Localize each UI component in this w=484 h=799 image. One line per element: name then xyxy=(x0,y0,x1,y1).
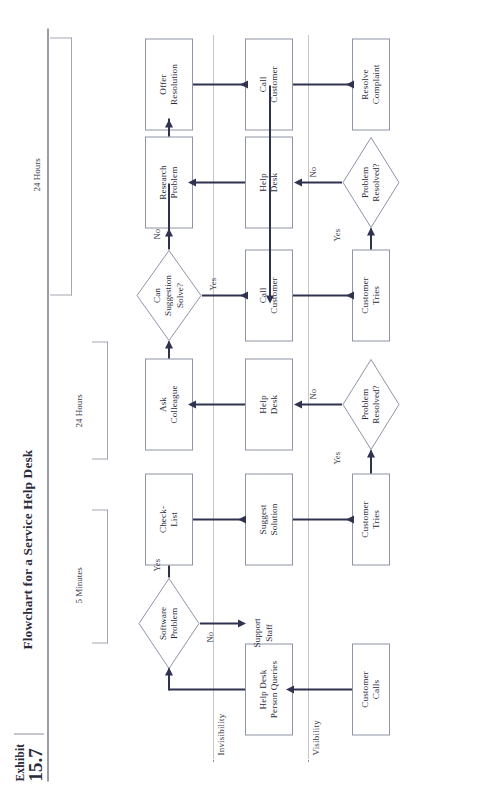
connector-callcust2-to-resolve xyxy=(293,83,352,85)
node-customer-tries-1[interactable]: Customer Tries xyxy=(352,473,390,565)
branch-label-software-yes: Yes xyxy=(152,558,162,571)
node-software-problem[interactable]: Software Problem xyxy=(138,577,200,669)
branch-label-resolved1-no: No xyxy=(308,388,318,399)
node-label: Customer Tries xyxy=(360,277,383,314)
node-customer-tries-2[interactable]: Customer Tries xyxy=(352,249,390,341)
arrowhead-right xyxy=(367,227,375,235)
connector-software-yes-to-checklist xyxy=(168,565,170,577)
node-can-suggestion-solve[interactable]: Can Suggestion Solve? xyxy=(136,249,202,341)
node-customer-calls[interactable]: Customer Calls xyxy=(352,643,390,735)
node-label: Customer Calls xyxy=(360,671,383,708)
branch-label-suggestion-no: No xyxy=(152,228,162,239)
node-resolve-complaint[interactable]: Resolve Complaint xyxy=(352,38,390,130)
connector-suggestion-yes xyxy=(202,294,245,296)
node-label: Check- List xyxy=(158,505,181,532)
node-label: Ask Colleague xyxy=(158,385,181,423)
arrowhead-up xyxy=(286,686,294,694)
connector-calls-to-queries xyxy=(293,688,352,690)
bracket-5-minutes xyxy=(92,509,108,643)
node-label: Offer Resolution xyxy=(158,64,181,105)
exhibit-divider xyxy=(14,733,44,735)
endpoint-support-staff: Support Staff xyxy=(252,618,275,647)
bracket-label-5-minutes: 5 Minutes xyxy=(74,567,84,603)
exhibit-identifier: Exhibit 15.7 xyxy=(14,724,45,781)
connector-resolved1-no xyxy=(300,403,342,405)
arrowhead-right xyxy=(165,119,173,127)
lane-label-invisibility: Invisibility xyxy=(216,713,226,755)
connector-suggestion-no-h xyxy=(168,183,170,249)
arrowhead-up xyxy=(346,80,354,88)
node-help-desk-1[interactable]: Help Desk xyxy=(245,358,293,450)
node-label: Can Suggestion Solve? xyxy=(152,275,187,316)
node-label: Software Problem xyxy=(158,606,181,639)
arrowhead-up xyxy=(294,178,302,186)
node-label: Resolve Complaint xyxy=(360,64,383,104)
connector-resolved2-no xyxy=(300,181,342,183)
node-suggest-solution[interactable]: Suggest Solution xyxy=(245,473,293,565)
node-label: Suggest Solution xyxy=(258,503,281,535)
bracket-24-hours-a xyxy=(92,341,108,459)
arrowhead-up xyxy=(188,178,196,186)
arrowhead-down xyxy=(238,619,246,627)
branch-label-resolved1-yes: Yes xyxy=(332,451,342,464)
branch-label-resolved2-no: No xyxy=(308,166,318,177)
branch-label-software-no: No xyxy=(205,631,215,642)
connector-offer-to-callcust2 xyxy=(193,83,245,85)
arrowhead-up xyxy=(240,291,248,299)
arrowhead-up xyxy=(346,291,354,299)
arrowhead-up xyxy=(240,80,248,88)
exhibit-number: 15.7 xyxy=(27,743,45,781)
node-offer-resolution[interactable]: Offer Resolution xyxy=(145,38,193,130)
exhibit-title: Flowchart for a Service Help Desk xyxy=(20,449,36,649)
node-problem-resolved-1[interactable]: Problem Resolved? xyxy=(342,358,400,450)
arrowhead-right xyxy=(367,449,375,457)
arrowhead-right xyxy=(165,667,173,675)
connector-callcust1-to-tries2 xyxy=(293,294,352,296)
node-ask-colleague[interactable]: Ask Colleague xyxy=(145,358,193,450)
header-rule xyxy=(47,28,49,781)
arrowhead-up xyxy=(238,516,246,524)
arrowhead-up xyxy=(188,400,196,408)
arrowhead-right xyxy=(165,340,173,348)
arrowhead-up xyxy=(294,400,302,408)
bracket-24-hours-b xyxy=(50,37,72,295)
node-label: Customer Tries xyxy=(360,501,383,538)
connector-queries-to-software xyxy=(169,688,245,690)
connector-suggest-to-tries1 xyxy=(293,518,352,520)
node-label: Problem Resolved? xyxy=(360,163,383,201)
exhibit-stage: Exhibit 15.7 Flowchart for a Service Hel… xyxy=(0,0,484,799)
arrowhead-right xyxy=(165,228,173,236)
lane-divider-invisibility xyxy=(213,35,214,761)
node-label: Problem Resolved? xyxy=(360,385,383,423)
node-label: Help Desk xyxy=(258,394,281,413)
branch-label-resolved2-yes: Yes xyxy=(332,228,342,241)
bracket-label-24-hours-b: 24 Hours xyxy=(32,158,42,191)
connector-long-feed-top xyxy=(269,85,271,296)
arrowhead-up xyxy=(346,516,354,524)
bracket-label-24-hours-a: 24 Hours xyxy=(74,394,84,427)
node-label: Help Desk Person Queries xyxy=(258,660,281,717)
lane-label-visibility: Visibility xyxy=(311,720,321,755)
connector-helpdesk1-to-ask xyxy=(193,403,245,405)
node-problem-resolved-2[interactable]: Problem Resolved? xyxy=(342,136,400,228)
connector-helpdesk2-to-research xyxy=(193,181,245,183)
node-check-list[interactable]: Check- List xyxy=(145,473,193,565)
arrowhead-left xyxy=(266,295,274,303)
connector-software-no xyxy=(200,622,240,624)
branch-label-suggestion-yes: Yes xyxy=(208,277,218,290)
